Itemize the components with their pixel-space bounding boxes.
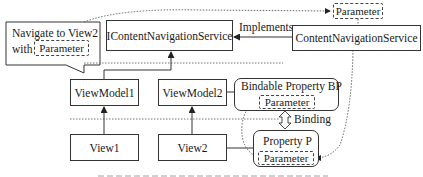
callout-parameter-box: Parameter bbox=[34, 40, 89, 56]
callout-line1: Navigate to View2 bbox=[12, 26, 98, 41]
binding-double-arrow bbox=[279, 111, 291, 129]
view1-box: View1 bbox=[70, 134, 139, 161]
property-p-label: Property P bbox=[263, 135, 312, 147]
callout-line2-prefix: with bbox=[12, 42, 32, 57]
icontent-navigation-service-box: IContentNavigationService bbox=[106, 20, 233, 51]
viewmodel2-box: ViewModel2 bbox=[158, 79, 227, 106]
property-p-box: Property P Parameter bbox=[253, 130, 319, 167]
cut-off-caption bbox=[98, 173, 328, 177]
bindable-parameter-box: Parameter bbox=[259, 95, 315, 109]
viewmodel1-to-interface-arrow bbox=[104, 52, 171, 79]
bindable-property-label: Bindable Property BP bbox=[241, 80, 342, 92]
content-navigation-service-box: ContentNavigationService bbox=[292, 25, 421, 51]
property-parameter-box: Parameter bbox=[258, 151, 314, 165]
view2-box: View2 bbox=[158, 134, 227, 161]
navigation-diagram: Navigate to View2 with Parameter IConten… bbox=[0, 0, 423, 177]
implements-label: Implements bbox=[239, 21, 293, 33]
parameter-top-box: Parameter bbox=[333, 3, 383, 19]
binding-label: Binding bbox=[294, 113, 331, 125]
viewmodel1-box: ViewModel1 bbox=[70, 79, 139, 106]
bindable-property-box: Bindable Property BP Parameter bbox=[234, 78, 339, 111]
